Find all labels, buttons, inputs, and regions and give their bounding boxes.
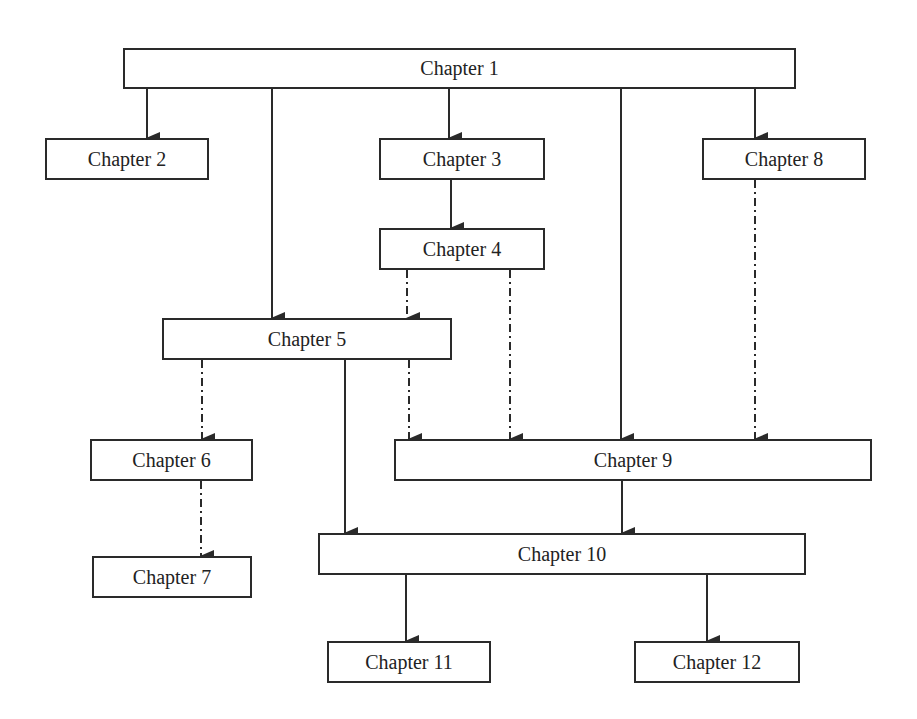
edges-layer xyxy=(0,0,917,719)
node-label: Chapter 6 xyxy=(132,449,210,472)
node-chapter-8: Chapter 8 xyxy=(702,138,866,180)
node-chapter-12: Chapter 12 xyxy=(634,641,800,683)
node-chapter-9: Chapter 9 xyxy=(394,439,872,481)
node-label: Chapter 11 xyxy=(365,651,453,674)
node-chapter-4: Chapter 4 xyxy=(379,228,545,270)
node-label: Chapter 5 xyxy=(268,328,346,351)
dependency-diagram: Chapter 1 Chapter 2 Chapter 3 Chapter 8 … xyxy=(0,0,917,719)
node-label: Chapter 10 xyxy=(518,543,606,566)
node-chapter-11: Chapter 11 xyxy=(327,641,491,683)
node-label: Chapter 1 xyxy=(420,57,498,80)
node-chapter-6: Chapter 6 xyxy=(90,439,253,481)
node-chapter-1: Chapter 1 xyxy=(123,48,796,89)
node-chapter-10: Chapter 10 xyxy=(318,533,806,575)
node-label: Chapter 9 xyxy=(594,449,672,472)
node-chapter-7: Chapter 7 xyxy=(92,556,252,598)
node-label: Chapter 4 xyxy=(423,238,501,261)
node-chapter-3: Chapter 3 xyxy=(379,138,545,180)
node-label: Chapter 8 xyxy=(745,148,823,171)
node-label: Chapter 7 xyxy=(133,566,211,589)
node-label: Chapter 12 xyxy=(673,651,761,674)
node-label: Chapter 3 xyxy=(423,148,501,171)
node-chapter-5: Chapter 5 xyxy=(162,318,452,360)
node-chapter-2: Chapter 2 xyxy=(45,138,209,180)
node-label: Chapter 2 xyxy=(88,148,166,171)
